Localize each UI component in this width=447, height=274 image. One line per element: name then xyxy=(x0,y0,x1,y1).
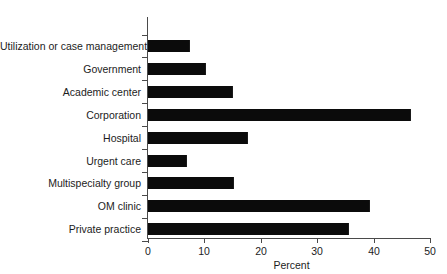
bar xyxy=(148,155,187,167)
category-label: Utilization or case management xyxy=(0,40,141,52)
x-tick xyxy=(204,238,205,243)
category-label: Multispecialty group xyxy=(0,177,141,189)
category-label: Private practice xyxy=(0,223,141,235)
x-tick-label: 10 xyxy=(198,245,210,257)
y-tick xyxy=(142,172,148,173)
bar xyxy=(148,63,206,75)
category-label: Government xyxy=(0,63,141,75)
x-tick-label: 0 xyxy=(145,245,151,257)
x-tick-label: 40 xyxy=(368,245,380,257)
x-tick-label: 30 xyxy=(311,245,323,257)
bar xyxy=(148,223,349,235)
x-axis-line xyxy=(148,238,431,239)
x-axis-title-text: Percent xyxy=(273,259,309,271)
x-tick-label: 20 xyxy=(255,245,267,257)
x-tick xyxy=(374,238,375,243)
x-tick xyxy=(148,238,149,243)
y-tick xyxy=(142,218,148,219)
x-axis-title: Percent xyxy=(0,259,447,271)
y-tick xyxy=(142,149,148,150)
category-label: OM clinic xyxy=(0,200,141,212)
y-tick xyxy=(142,103,148,104)
bar xyxy=(148,200,370,212)
y-tick xyxy=(142,35,148,36)
category-label: Urgent care xyxy=(0,155,141,167)
y-tick xyxy=(142,57,148,58)
x-tick-label: 50 xyxy=(424,245,436,257)
y-tick xyxy=(142,126,148,127)
bar xyxy=(148,40,190,52)
x-tick xyxy=(317,238,318,243)
bar xyxy=(148,177,234,189)
x-tick xyxy=(261,238,262,243)
bar-chart: Utilization or case managementGovernment… xyxy=(0,0,447,274)
category-label: Corporation xyxy=(0,109,141,121)
y-tick xyxy=(142,80,148,81)
bar xyxy=(148,109,411,121)
category-label: Hospital xyxy=(0,132,141,144)
x-tick xyxy=(430,238,431,243)
y-tick xyxy=(142,195,148,196)
bar xyxy=(148,86,233,98)
bar xyxy=(148,132,248,144)
category-label: Academic center xyxy=(0,86,141,98)
